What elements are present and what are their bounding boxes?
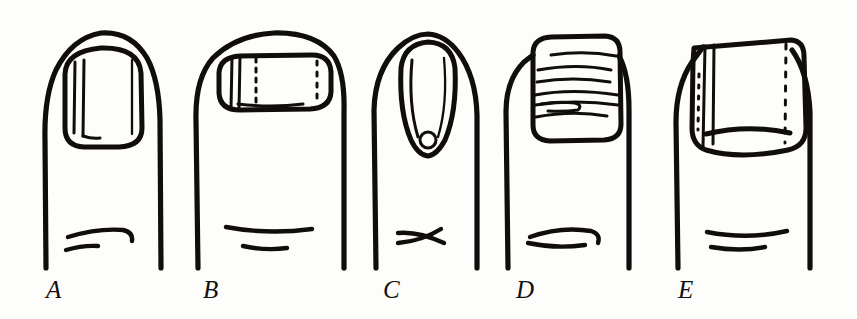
figure-plate: A B C D E xyxy=(0,0,857,319)
panel-label-b: B xyxy=(203,277,219,302)
panel-label-c: C xyxy=(383,277,400,302)
panel-label-layer: A B C D E xyxy=(0,0,857,319)
panel-label-a: A xyxy=(46,277,62,302)
panel-label-d: D xyxy=(516,277,535,302)
panel-label-e: E xyxy=(678,277,694,302)
